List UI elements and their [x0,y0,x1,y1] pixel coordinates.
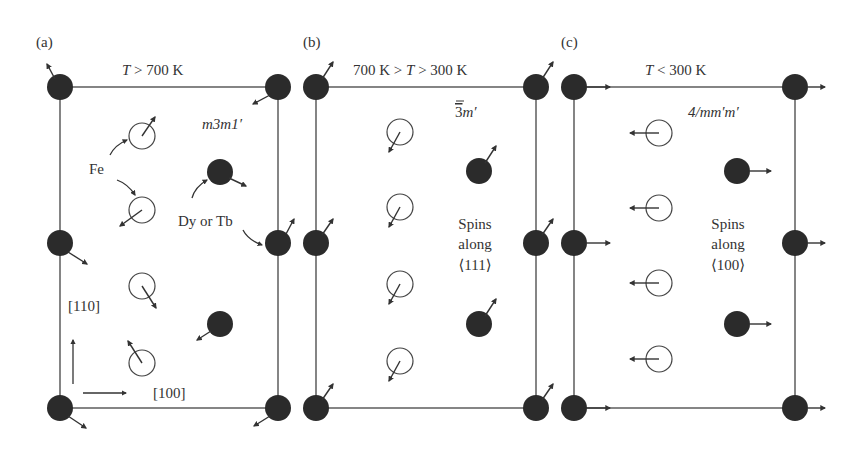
re-atom [724,311,750,337]
fe-label: Fe [89,161,104,177]
spin-arrow-icon [286,219,294,234]
spin-arrow-icon [47,64,55,79]
fe-pointer-arrow-icon [117,180,135,195]
re-atom [782,74,808,100]
svg-text:Spins: Spins [711,216,745,232]
spin-arrow-icon [229,178,246,186]
spin-arrow-icon [68,252,87,264]
spin-arrow-icon [197,331,211,340]
fe-atoms-c [630,120,672,372]
re-atom [561,230,587,256]
re-atom [207,159,233,185]
unit-cell-b [316,87,536,408]
spin-arrow-icon [322,384,333,400]
spin-arrow-icon [322,62,333,79]
spin-note-b: Spins along ⟨111⟩ [458,216,492,273]
spin-structure-figure: (a) T > 700 K m3m1′ [0,0,863,449]
spin-arrow-icon [485,146,496,163]
svg-text:Spins: Spins [458,216,492,232]
axis-label-100: [100] [153,385,186,401]
re-atom [303,395,329,421]
spin-arrow-icon [68,416,86,428]
re-atoms-a [47,64,294,428]
unit-cell-a [60,87,278,408]
re-atom [265,230,291,256]
svg-text:⟨111⟩: ⟨111⟩ [458,257,491,273]
spin-arrow-icon [542,219,553,235]
re-atom [47,74,73,100]
spin-note-c: Spins along ⟨100⟩ [711,216,745,273]
re-atom [466,311,492,337]
re-atom [523,74,549,100]
re-pointer-arrow-icon [243,230,262,245]
re-pointer-arrow-icon [192,180,207,198]
fe-atoms-a [120,117,156,376]
svg-text:along: along [458,236,492,252]
re-atom [561,74,587,100]
re-atoms-b [303,62,553,421]
re-atom [207,311,233,337]
fe-atoms-b [387,119,413,381]
panel-c: (c) T < 300 K 4/mm′m′ [561,34,825,421]
re-atom [466,158,492,184]
spin-arrow-icon [253,95,270,104]
fe-pointer-arrow-icon [110,140,127,155]
re-atom [724,158,750,184]
unit-cell-c [574,87,795,408]
spin-arrow-icon [485,299,496,316]
panel-a-symmetry: m3m1′ [202,116,243,132]
re-atom [523,395,549,421]
re-atom [782,395,808,421]
re-atom [782,230,808,256]
re-atoms-c [561,74,825,421]
re-label: Dy or Tb [178,213,233,229]
panel-b-label: (b) [303,34,321,51]
svg-text:⟨100⟩: ⟨100⟩ [711,257,745,273]
spin-arrow-icon [254,416,270,426]
spin-arrow-icon [542,384,553,400]
panel-c-label: (c) [561,34,578,51]
re-atom [303,230,329,256]
panel-a-label: (a) [36,34,53,51]
re-atom [303,74,329,100]
panel-c-temperature: T < 300 K [645,62,707,78]
axis-label-110: [110] [68,298,100,314]
re-atom [523,230,549,256]
panel-c-symmetry: 4/mm′m′ [688,104,739,120]
panel-a: (a) T > 700 K m3m1′ [36,34,294,428]
spin-arrow-icon [542,62,553,79]
spin-arrow-icon [322,219,333,235]
panel-b-temperature: 700 K > T > 300 K [353,62,468,78]
svg-text:along: along [711,236,745,252]
panel-a-temperature: T > 700 K [122,62,184,78]
re-atom [561,395,587,421]
panel-b-symmetry: 3m′ [455,104,477,120]
panel-b: (b) 700 K > T > 300 K 3m′ [303,34,553,421]
